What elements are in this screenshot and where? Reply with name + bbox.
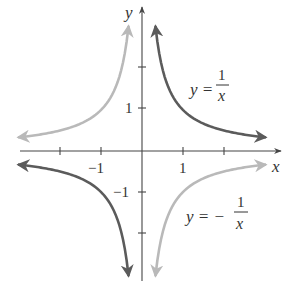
curve-label-reciprocal: y = 1 x [188,67,229,104]
label-lhs: y = [188,80,213,99]
label-numerator: 1 [237,194,245,210]
label-lhs: y = − [184,207,225,226]
y-tick-label-1: 1 [125,100,133,116]
x-tick-label-neg1: −1 [88,160,104,176]
hyperbola-graph: y x −1 1 1 −1 y = 1 x y = − 1 x [0,0,290,294]
label-denominator: x [217,87,225,104]
label-numerator: 1 [218,67,226,83]
curve-label-neg-reciprocal: y = − 1 x [184,194,248,232]
x-tick-label-1: 1 [179,160,187,176]
y-axis-label: y [123,3,133,22]
label-denominator: x [235,215,243,232]
x-axis-label: x [271,157,280,176]
y-tick-label-neg1: −1 [113,184,129,200]
reciprocal-curve-branch-2 [19,165,128,276]
neg-reciprocal-curve-branch-1 [19,27,128,138]
